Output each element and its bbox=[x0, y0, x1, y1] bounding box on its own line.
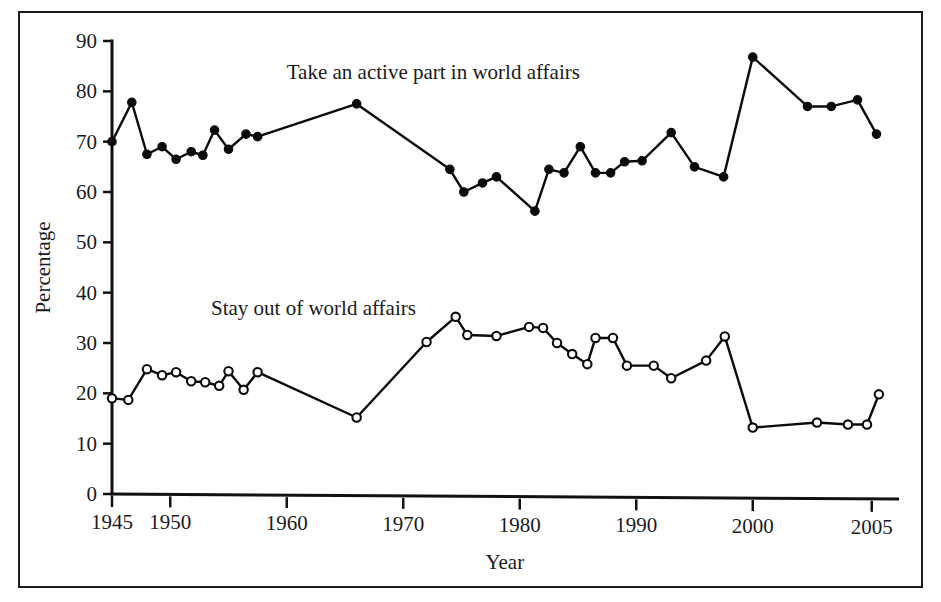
data-point-marker bbox=[201, 378, 209, 386]
data-point-marker bbox=[352, 100, 360, 108]
data-point-marker bbox=[560, 169, 568, 177]
data-point-marker bbox=[568, 350, 576, 358]
data-point-marker bbox=[690, 163, 698, 171]
x-tick-label: 1980 bbox=[499, 513, 541, 537]
data-point-marker bbox=[239, 386, 247, 394]
x-tick-label: 1950 bbox=[149, 510, 191, 534]
data-point-marker bbox=[492, 173, 500, 181]
data-point-marker bbox=[853, 96, 861, 104]
data-point-marker bbox=[158, 143, 166, 151]
data-point-marker bbox=[158, 371, 166, 379]
data-point-marker bbox=[128, 98, 136, 106]
x-tick-label: 2005 bbox=[851, 515, 893, 539]
data-point-marker bbox=[576, 143, 584, 151]
data-point-marker bbox=[531, 207, 539, 215]
data-point-marker bbox=[463, 331, 471, 339]
data-point-marker bbox=[803, 102, 811, 110]
y-tick-label: 20 bbox=[76, 381, 97, 405]
data-point-marker bbox=[108, 137, 116, 145]
data-point-marker bbox=[422, 338, 430, 346]
data-point-marker bbox=[253, 132, 261, 140]
data-point-marker bbox=[844, 420, 852, 428]
data-point-marker bbox=[187, 377, 195, 385]
data-point-marker bbox=[199, 151, 207, 159]
y-tick-label: 60 bbox=[76, 180, 97, 204]
data-point-marker bbox=[460, 188, 468, 196]
data-point-marker bbox=[667, 374, 675, 382]
x-axis-line bbox=[112, 494, 898, 499]
data-point-marker bbox=[719, 173, 727, 181]
y-tick-label: 30 bbox=[76, 331, 97, 355]
data-point-marker bbox=[749, 53, 757, 61]
y-tick-label: 90 bbox=[76, 29, 97, 53]
data-point-marker bbox=[446, 165, 454, 173]
data-point-marker bbox=[872, 130, 880, 138]
data-point-marker bbox=[539, 324, 547, 332]
data-point-marker bbox=[606, 169, 614, 177]
x-tick-label: 1970 bbox=[382, 512, 424, 536]
data-point-marker bbox=[215, 382, 223, 390]
data-point-marker bbox=[172, 155, 180, 163]
data-point-marker bbox=[813, 418, 821, 426]
data-point-marker bbox=[224, 367, 232, 375]
data-point-marker bbox=[478, 179, 486, 187]
data-point-marker bbox=[143, 365, 151, 373]
data-point-marker bbox=[620, 158, 628, 166]
data-point-marker bbox=[650, 361, 658, 369]
axes-layer: 0102030405060708090194519501960197019801… bbox=[76, 29, 898, 539]
data-point-marker bbox=[124, 396, 132, 404]
x-tick-label: 1960 bbox=[266, 511, 308, 535]
data-point-marker bbox=[492, 332, 500, 340]
data-point-marker bbox=[352, 413, 360, 421]
data-point-marker bbox=[451, 313, 459, 321]
data-point-marker bbox=[210, 126, 218, 134]
data-point-marker bbox=[863, 420, 871, 428]
annotation-layer: Take an active part in world affairsStay… bbox=[211, 60, 580, 321]
y-tick-label: 50 bbox=[76, 230, 97, 254]
y-tick-label: 70 bbox=[76, 130, 97, 154]
x-tick-label: 1945 bbox=[91, 510, 133, 534]
data-point-marker bbox=[108, 394, 116, 402]
data-point-marker bbox=[242, 130, 250, 138]
y-tick-label: 0 bbox=[87, 482, 98, 506]
y-tick-label: 40 bbox=[76, 281, 97, 305]
series-label: Take an active part in world affairs bbox=[287, 60, 580, 84]
data-point-marker bbox=[638, 157, 646, 165]
data-point-marker bbox=[143, 150, 151, 158]
x-tick-label: 2000 bbox=[732, 514, 774, 538]
figure-frame: 0102030405060708090194519501960197019801… bbox=[18, 11, 923, 588]
data-point-marker bbox=[875, 390, 883, 398]
series-layer bbox=[108, 53, 883, 432]
data-point-marker bbox=[702, 356, 710, 364]
data-point-marker bbox=[623, 361, 631, 369]
data-point-marker bbox=[583, 360, 591, 368]
y-axis-title: Percentage bbox=[31, 221, 55, 313]
data-point-marker bbox=[827, 102, 835, 110]
data-point-marker bbox=[525, 323, 533, 331]
x-axis-title: Year bbox=[485, 550, 524, 574]
data-point-marker bbox=[187, 148, 195, 156]
data-point-marker bbox=[667, 128, 675, 136]
data-point-marker bbox=[224, 145, 232, 153]
y-tick-label: 80 bbox=[76, 79, 97, 103]
data-point-marker bbox=[749, 423, 757, 431]
y-tick-label: 10 bbox=[76, 432, 97, 456]
data-point-marker bbox=[545, 165, 553, 173]
line-chart: 0102030405060708090194519501960197019801… bbox=[20, 13, 921, 586]
data-point-marker bbox=[609, 334, 617, 342]
x-tick-label: 1990 bbox=[615, 513, 657, 537]
data-point-marker bbox=[553, 339, 561, 347]
data-point-marker bbox=[591, 334, 599, 342]
series-label: Stay out of world affairs bbox=[211, 296, 416, 320]
series-2 bbox=[108, 313, 883, 432]
data-point-marker bbox=[591, 169, 599, 177]
data-point-marker bbox=[721, 332, 729, 340]
data-point-marker bbox=[253, 368, 261, 376]
data-point-marker bbox=[172, 368, 180, 376]
